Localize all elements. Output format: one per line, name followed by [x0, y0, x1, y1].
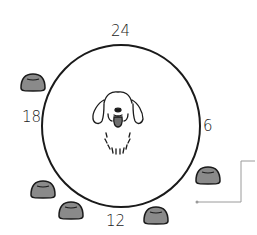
clock-label-right: 6	[203, 119, 213, 134]
clock-label-top: 24	[111, 24, 130, 39]
bowl-icon	[144, 207, 168, 224]
bowl-icon	[21, 74, 45, 91]
clock-label-bottom: 12	[106, 214, 125, 229]
bowl-icon	[196, 167, 220, 184]
bowl-icon	[31, 181, 55, 198]
dog-face-icon	[93, 92, 143, 154]
clock-label-left: 18	[22, 110, 41, 125]
bowl-icon	[59, 202, 83, 219]
clock-diagram: 24 18 6 12	[0, 0, 257, 235]
